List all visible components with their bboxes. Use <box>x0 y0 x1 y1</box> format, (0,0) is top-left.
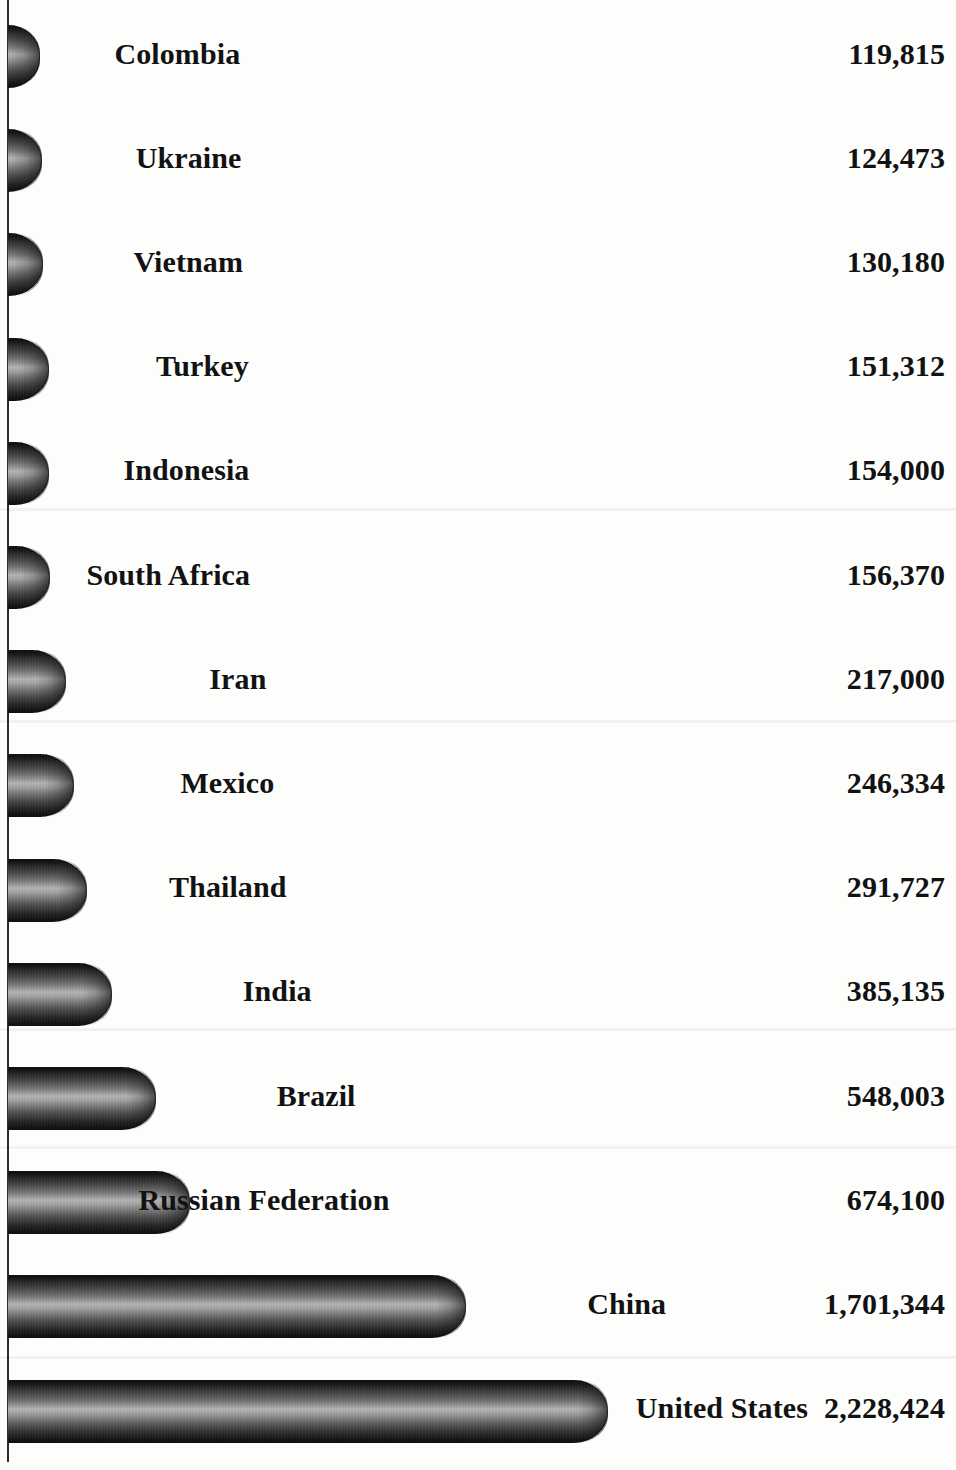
bar-row: Thailand291,727 <box>0 859 956 922</box>
bar-category-label: Thailand <box>0 870 287 904</box>
bar-value-label: 1,701,344 <box>824 1287 945 1321</box>
bar-value-label: 154,000 <box>847 453 945 487</box>
bar-row: India385,135 <box>0 963 956 1026</box>
bar-row: Colombia119,815 <box>0 25 956 88</box>
bar-value-label: 119,815 <box>848 37 945 71</box>
bar-row: Brazil548,003 <box>0 1067 956 1130</box>
bar-row: Indonesia154,000 <box>0 442 956 505</box>
bar-category-label: Iran <box>0 662 266 696</box>
bar-category-label: South Africa <box>0 558 250 592</box>
bar-category-label: United States <box>0 1391 808 1425</box>
scan-artifact-band <box>0 1146 956 1149</box>
scan-artifact-band <box>0 508 956 511</box>
bar-category-label: India <box>0 974 312 1008</box>
bar-row: United States2,228,424 <box>0 1380 956 1443</box>
scan-artifact-band <box>0 720 956 723</box>
bar-category-label: Ukraine <box>0 141 242 175</box>
bar-value-label: 674,100 <box>847 1183 945 1217</box>
bar-value-label: 548,003 <box>847 1079 945 1113</box>
bar-row: Mexico246,334 <box>0 754 956 817</box>
bar-category-label: Turkey <box>0 349 249 383</box>
bar-value-label: 217,000 <box>847 662 945 696</box>
bar-row: Turkey151,312 <box>0 338 956 401</box>
scan-artifact-band <box>0 1356 956 1359</box>
bar-row: Iran217,000 <box>0 650 956 713</box>
bar-category-label: China <box>0 1287 666 1321</box>
bar-value-label: 385,135 <box>847 974 945 1008</box>
bar-category-label: Vietnam <box>0 245 243 279</box>
bar-category-label: Indonesia <box>0 453 249 487</box>
bar-value-label: 246,334 <box>847 766 945 800</box>
bar-category-label: Russian Federation <box>0 1183 390 1217</box>
bar-row: Ukraine124,473 <box>0 129 956 192</box>
bar-row: Vietnam130,180 <box>0 233 956 296</box>
bar-chart: Colombia119,815Ukraine124,473Vietnam130,… <box>0 0 956 1470</box>
category-axis-line <box>7 0 9 1462</box>
bar-row: China1,701,344 <box>0 1275 956 1338</box>
bar-row: Russian Federation674,100 <box>0 1171 956 1234</box>
scan-artifact-band <box>0 1028 956 1031</box>
bar-value-label: 124,473 <box>847 141 945 175</box>
bar-value-label: 156,370 <box>847 558 945 592</box>
bar-category-label: Mexico <box>0 766 274 800</box>
bar-category-label: Colombia <box>0 37 240 71</box>
bar-row: South Africa156,370 <box>0 546 956 609</box>
bar-value-label: 151,312 <box>847 349 945 383</box>
bar-value-label: 291,727 <box>847 870 945 904</box>
bar-value-label: 130,180 <box>847 245 945 279</box>
bar-value-label: 2,228,424 <box>824 1391 945 1425</box>
bar-category-label: Brazil <box>0 1079 356 1113</box>
